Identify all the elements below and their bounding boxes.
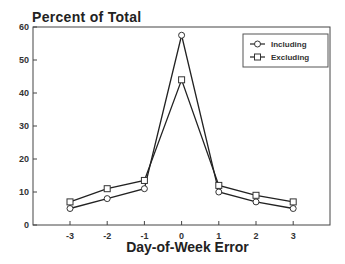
circle-marker (141, 186, 147, 192)
x-tick-label: -1 (140, 231, 148, 241)
x-tick-label: -3 (66, 231, 74, 241)
x-tick-label: 1 (216, 231, 221, 241)
legend-label: Including (271, 40, 307, 49)
square-marker (104, 186, 110, 192)
x-tick-label: 3 (291, 231, 296, 241)
circle-marker (216, 189, 222, 195)
square-marker-icon (255, 54, 261, 60)
circle-marker (179, 32, 185, 38)
y-tick-label: 20 (19, 154, 29, 164)
legend: IncludingExcluding (243, 34, 328, 67)
legend-box (243, 34, 328, 67)
line-chart: 0102030405060 -3-2-10123 IncludingExclud… (0, 0, 345, 264)
circle-marker-icon (255, 41, 261, 47)
square-marker (141, 177, 147, 183)
circle-marker (290, 206, 296, 212)
square-marker (290, 199, 296, 205)
y-tick-label: 30 (19, 121, 29, 131)
circle-marker (67, 206, 73, 212)
x-tick-label: 2 (253, 231, 258, 241)
square-marker (253, 192, 259, 198)
x-tick-label: -2 (103, 231, 111, 241)
y-tick-label: 50 (19, 55, 29, 65)
circle-marker (104, 196, 110, 202)
y-axis: 0102030405060 (19, 22, 37, 230)
circle-marker (253, 199, 259, 205)
x-tick-label: 0 (179, 231, 184, 241)
series-line (70, 80, 293, 202)
y-tick-label: 40 (19, 88, 29, 98)
y-tick-label: 10 (19, 187, 29, 197)
y-tick-label: 0 (24, 220, 29, 230)
square-marker (179, 77, 185, 83)
series-excluding (67, 77, 296, 205)
y-tick-label: 60 (19, 22, 29, 32)
x-axis: -3-2-10123 (66, 221, 296, 241)
legend-label: Excluding (271, 53, 309, 62)
square-marker (67, 199, 73, 205)
square-marker (216, 182, 222, 188)
